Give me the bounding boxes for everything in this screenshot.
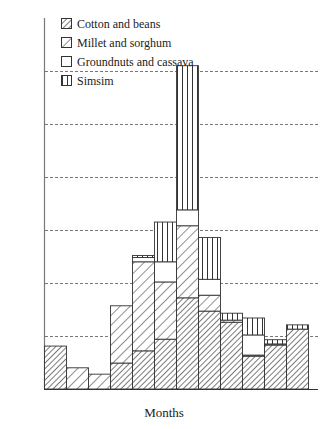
- bar-segment: [243, 318, 265, 335]
- bar-segment: [111, 363, 133, 389]
- legend-swatch-groundnuts: [62, 57, 72, 67]
- bar-month-9: [221, 313, 243, 389]
- bar-month-4: [111, 306, 133, 389]
- bar-segment: [265, 340, 287, 344]
- bar-month-3: [89, 374, 111, 389]
- bar-segment: [199, 295, 221, 311]
- bars: [45, 66, 309, 389]
- bar-segment: [199, 311, 221, 389]
- stacked-bar-chart: Cotton and beans Millet and sorghum Grou…: [0, 0, 331, 429]
- x-axis-label: Months: [144, 405, 184, 420]
- bar-segment: [155, 222, 177, 262]
- legend-label-simsim: Simsim: [77, 74, 114, 88]
- bar-segment: [155, 282, 177, 339]
- bar-month-7: [177, 66, 199, 389]
- bar-segment: [199, 279, 221, 295]
- bar-segment: [287, 329, 309, 389]
- bar-segment: [199, 237, 221, 279]
- legend-swatch-simsim: [62, 76, 72, 86]
- bar-month-1: [45, 346, 67, 389]
- bar-segment: [177, 226, 199, 298]
- legend-label-millet: Millet and sorghum: [77, 36, 172, 50]
- bar-segment: [221, 322, 243, 389]
- bar-segment: [177, 298, 199, 389]
- legend-label-cotton: Cotton and beans: [77, 17, 161, 31]
- bar-month-5: [133, 255, 155, 389]
- bar-segment: [133, 258, 155, 262]
- bar-segment: [287, 325, 309, 329]
- bar-segment: [111, 306, 133, 363]
- bar-segment: [243, 356, 265, 389]
- bar-segment: [133, 262, 155, 351]
- bar-segment: [89, 374, 111, 389]
- bar-segment: [243, 335, 265, 355]
- bar-segment: [133, 351, 155, 389]
- bar-month-8: [199, 237, 221, 389]
- legend-swatch-cotton: [62, 19, 72, 29]
- bar-segment: [45, 346, 67, 389]
- bar-segment: [221, 313, 243, 320]
- legend-label-groundnuts: Groundnuts and cassava: [77, 55, 194, 69]
- bar-segment: [177, 210, 199, 226]
- legend: Cotton and beans Millet and sorghum Grou…: [62, 17, 195, 88]
- bar-month-11: [265, 340, 287, 389]
- bar-month-6: [155, 222, 177, 389]
- bar-month-2: [67, 368, 89, 389]
- bar-segment: [155, 339, 177, 389]
- bar-segment: [67, 368, 89, 389]
- bar-segment: [177, 66, 199, 210]
- bar-segment: [265, 345, 287, 389]
- bar-segment: [155, 262, 177, 282]
- bar-segment: [133, 255, 155, 257]
- bar-month-12: [287, 325, 309, 389]
- legend-swatch-millet: [62, 38, 72, 48]
- bar-month-10: [243, 318, 265, 389]
